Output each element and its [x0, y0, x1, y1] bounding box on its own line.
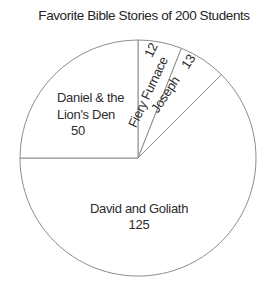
label-daniel-value: 50	[71, 123, 85, 138]
label-david: David and Goliath	[90, 201, 188, 216]
label-daniel-line1: Daniel & the	[57, 90, 124, 105]
pie-chart: Daniel & the Lion's Den 50 Fiery Furnace…	[0, 0, 271, 285]
label-daniel-line2: Lion's Den	[57, 107, 115, 122]
pie-chart-figure: Favorite Bible Stories of 200 Students D…	[0, 0, 271, 285]
label-david-value: 125	[129, 217, 150, 232]
